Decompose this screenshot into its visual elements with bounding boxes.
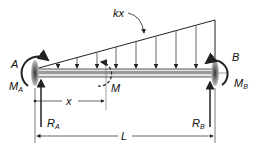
moment-b-label: MB: [234, 77, 248, 90]
support-a: [31, 60, 39, 86]
beam: [35, 69, 228, 77]
dim-l-label: L: [121, 130, 127, 142]
support-b: [211, 60, 219, 86]
section-moment: [98, 60, 112, 110]
reaction-b-label: RB: [192, 117, 205, 130]
distributed-load: [35, 20, 215, 69]
reaction-a-label: RA: [47, 117, 60, 130]
end-a-label: A: [10, 58, 18, 70]
load-label: kx: [113, 7, 125, 19]
dim-x-label: x: [65, 95, 72, 107]
end-b-label: B: [232, 51, 239, 63]
beam-diagram: kx A MA B MB M RA RB x L: [0, 0, 256, 153]
load-leader-arrow: [128, 13, 144, 33]
section-moment-label: M: [111, 82, 121, 94]
moment-a-label: MA: [9, 80, 23, 93]
